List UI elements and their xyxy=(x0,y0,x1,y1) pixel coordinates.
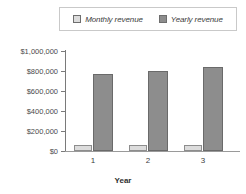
y-tick-label: $0 xyxy=(0,147,58,156)
x-tick-label-2: 2 xyxy=(138,156,158,165)
x-tick-label-1: 1 xyxy=(83,156,103,165)
x-axis-line xyxy=(65,151,240,152)
y-axis-tick xyxy=(61,131,65,132)
legend-label-yearly-revenue: Yearly revenue xyxy=(171,15,223,24)
y-axis-labels: $1,000,000 $800,000 $600,000 $400,000 $2… xyxy=(0,0,59,194)
y-axis-tick xyxy=(61,51,65,52)
y-axis-tick xyxy=(61,111,65,112)
y-tick-label: $600,000 xyxy=(0,87,58,96)
y-axis-tick xyxy=(61,91,65,92)
legend-entry-monthly-revenue: Monthly revenue xyxy=(73,15,143,24)
y-tick-label: $400,000 xyxy=(0,107,58,116)
y-axis-tick xyxy=(61,71,65,72)
plot-area xyxy=(66,51,240,151)
bar-chart: Monthly revenue Yearly revenue $1,000,00… xyxy=(0,0,246,194)
x-axis-title: Year xyxy=(0,176,246,185)
x-tick-label-3: 3 xyxy=(193,156,213,165)
chart-legend: Monthly revenue Yearly revenue xyxy=(59,7,237,31)
legend-swatch-yearly-revenue xyxy=(159,15,167,23)
bar-yearly-year-1 xyxy=(93,74,113,151)
y-tick-label: $1,000,000 xyxy=(0,47,58,56)
bar-yearly-year-2 xyxy=(148,71,168,151)
legend-entry-yearly-revenue: Yearly revenue xyxy=(159,15,223,24)
legend-swatch-monthly-revenue xyxy=(73,15,81,23)
y-tick-label: $200,000 xyxy=(0,127,58,136)
bar-yearly-year-3 xyxy=(203,67,223,151)
y-tick-label: $800,000 xyxy=(0,67,58,76)
legend-label-monthly-revenue: Monthly revenue xyxy=(85,15,143,24)
